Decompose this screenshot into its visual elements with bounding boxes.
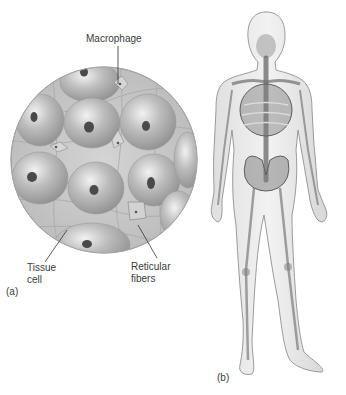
panel-a-label: (a) xyxy=(6,286,18,297)
figure-canvas xyxy=(0,0,346,395)
reticular-fibers-label-line1: Reticular xyxy=(131,261,170,273)
tissue-cell xyxy=(174,132,202,188)
rib-cage xyxy=(240,84,292,136)
tissue-cell-label: Tissue cell xyxy=(27,262,56,286)
reticular-fibers-label: Reticular fibers xyxy=(131,261,170,285)
tissue-cell xyxy=(68,162,124,214)
panel-b-label: (b) xyxy=(217,372,229,383)
macrophage xyxy=(128,202,146,220)
tissue-cell xyxy=(16,94,64,146)
macrophage-label: Macrophage xyxy=(86,33,142,45)
human-body-figure xyxy=(211,12,327,375)
tissue-cell xyxy=(160,191,196,239)
tissue-cell xyxy=(120,94,176,150)
tissue-cell xyxy=(12,152,68,204)
tissue-cell-label-line2: cell xyxy=(27,274,56,286)
tissue-cell-label-line1: Tissue xyxy=(27,262,56,274)
tissue-cell xyxy=(64,98,120,148)
reticular-fibers-label-line2: fibers xyxy=(131,273,170,285)
tissue-magnification-circle xyxy=(10,60,202,267)
skull xyxy=(256,34,276,58)
